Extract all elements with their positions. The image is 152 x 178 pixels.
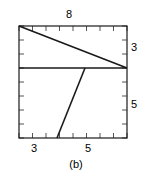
figure-container: 8 3 5 3 5 (b): [0, 0, 152, 178]
tick-marks-right: [122, 26, 127, 138]
dimension-label-bottom-right: 5: [85, 143, 91, 154]
dimension-label-bottom-left: 3: [31, 143, 37, 154]
geometry-figure-svg: [0, 0, 152, 178]
slanted-segment-line: [57, 68, 85, 138]
tick-marks-top: [19, 26, 127, 31]
dimension-label-right-upper: 3: [131, 42, 137, 53]
figure-caption: (b): [0, 159, 152, 170]
dimension-label-top: 8: [66, 9, 72, 20]
bounding-rectangle: [19, 26, 127, 138]
diagonal-hypotenuse-line: [19, 26, 127, 68]
tick-marks-left: [19, 26, 24, 138]
dimension-label-right-lower: 5: [131, 99, 137, 110]
tick-marks-bottom: [19, 133, 127, 138]
